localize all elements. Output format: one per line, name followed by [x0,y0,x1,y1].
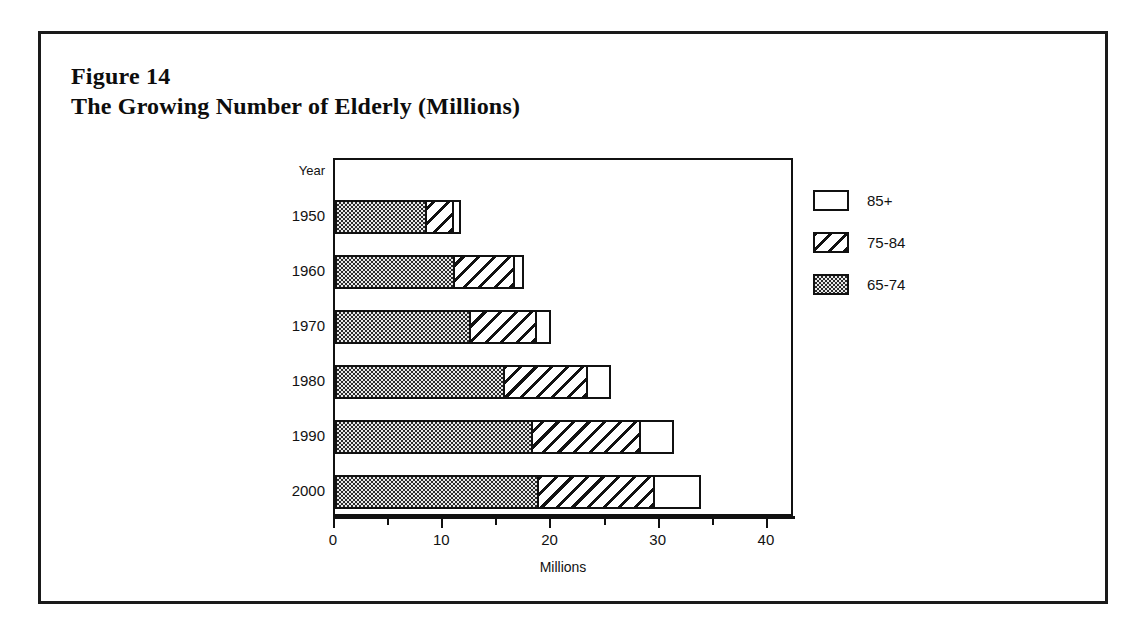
bar-segment-85+[interactable] [639,422,672,452]
year-label-1980: 1980 [265,373,325,388]
bar-segment-65-74[interactable] [337,257,453,287]
bar-segment-75-84[interactable] [469,312,535,342]
bar-row [335,365,791,399]
bar-segment-65-74[interactable] [337,422,531,452]
bar-row [335,420,791,454]
x-tick-minor [387,519,389,525]
legend-label-85-plus: 85+ [867,193,892,208]
bar-segment-85+[interactable] [535,312,550,342]
year-axis-title: Year [265,164,325,177]
chart-plot-area: Year 1950 1960 1970 1980 1990 2000 01020… [41,34,1105,601]
bar-row [335,200,791,234]
year-label-1990: 1990 [265,428,325,443]
bar-row [335,475,791,509]
bar-segment-65-74[interactable] [337,477,537,507]
bar-row [335,310,791,344]
stacked-bar-1950[interactable] [335,200,461,234]
x-tick-label-10: 10 [421,532,461,547]
bar-segment-85+[interactable] [586,367,609,397]
chart-legend: 85+ 75-84 65-74 [813,189,973,315]
legend-swatch-hatch-icon [813,232,849,253]
legend-item-65-74: 65-74 [813,273,973,295]
x-tick-major [333,519,335,528]
stacked-bar-1980[interactable] [335,365,611,399]
bar-segment-75-84[interactable] [503,367,585,397]
x-tick-minor [712,519,714,525]
year-label-2000: 2000 [265,483,325,498]
stacked-bar-1960[interactable] [335,255,524,289]
x-tick-major [658,519,660,528]
year-label-1960: 1960 [265,263,325,278]
bar-segment-75-84[interactable] [453,257,512,287]
x-tick-minor [495,519,497,525]
bar-segment-65-74[interactable] [337,202,425,232]
x-axis-title: Millions [333,560,793,574]
x-tick-major [766,519,768,528]
stacked-bar-1990[interactable] [335,420,674,454]
plot-frame [333,158,793,516]
x-axis-line [333,516,795,519]
x-tick-label-0: 0 [313,532,353,547]
legend-label-65-74: 65-74 [867,277,905,292]
legend-swatch-open-icon [813,190,849,211]
bar-segment-75-84[interactable] [537,477,653,507]
bar-row [335,255,791,289]
legend-item-75-84: 75-84 [813,231,973,253]
x-tick-label-20: 20 [529,532,569,547]
x-tick-major [441,519,443,528]
year-label-1970: 1970 [265,318,325,333]
legend-swatch-checker-icon [813,274,849,295]
bar-segment-65-74[interactable] [337,312,469,342]
x-axis: 010203040 Millions [333,516,795,576]
stacked-bar-1970[interactable] [335,310,551,344]
stacked-bar-2000[interactable] [335,475,701,509]
x-tick-minor [604,519,606,525]
x-tick-major [549,519,551,528]
x-tick-label-40: 40 [746,532,786,547]
bar-segment-65-74[interactable] [337,367,503,397]
bar-segment-75-84[interactable] [425,202,452,232]
figure-border: Figure 14 The Growing Number of Elderly … [38,31,1108,604]
x-tick-label-30: 30 [638,532,678,547]
legend-item-85-plus: 85+ [813,189,973,211]
bar-segment-85+[interactable] [452,202,458,232]
bar-segment-85+[interactable] [513,257,523,287]
bar-segment-85+[interactable] [653,477,699,507]
legend-label-75-84: 75-84 [867,235,905,250]
bar-segment-75-84[interactable] [531,422,639,452]
year-label-1950: 1950 [265,208,325,223]
year-axis-labels: Year 1950 1960 1970 1980 1990 2000 [263,158,325,516]
